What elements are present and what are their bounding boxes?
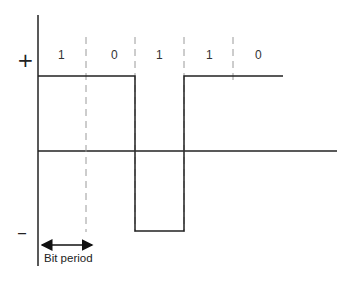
signal-diagram: + – 1 0 1 1 0 Bit period (0, 0, 355, 281)
signal-waveform (38, 76, 283, 231)
bit-label-5: 0 (255, 48, 262, 62)
bit-label-2: 0 (111, 48, 118, 62)
bit-boundaries (86, 37, 233, 232)
bit-label-3: 1 (156, 48, 163, 62)
negative-level-label: – (17, 220, 27, 244)
bit-label-4: 1 (206, 48, 213, 62)
positive-level-label: + (17, 48, 34, 72)
bit-label-1: 1 (58, 48, 65, 62)
bit-period-label: Bit period (44, 252, 93, 264)
